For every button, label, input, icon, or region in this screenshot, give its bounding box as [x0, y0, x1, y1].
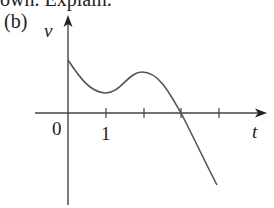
velocity-graph: v t 0 1 [0, 0, 274, 208]
tick-label-1: 1 [101, 123, 111, 144]
origin-label: 0 [52, 118, 62, 139]
y-axis-label: v [44, 20, 53, 41]
x-axis-label: t [252, 121, 258, 142]
velocity-curve [68, 60, 217, 185]
